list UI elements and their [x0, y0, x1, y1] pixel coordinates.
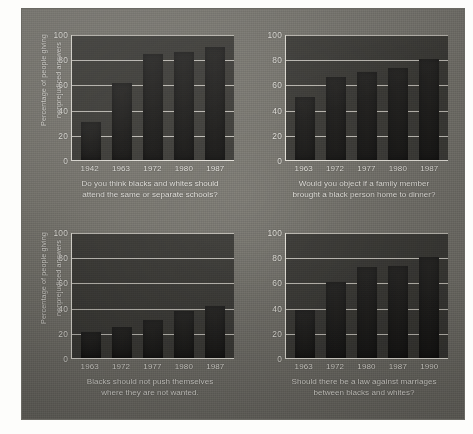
bar-1942: [81, 122, 101, 160]
caption-line2: brought a black person home to dinner?: [274, 189, 454, 200]
caption-bottom-left: Blacks should not push themselves where …: [60, 376, 240, 398]
x-tick-label: 1977: [354, 164, 378, 176]
y-tick-label: 0: [63, 354, 68, 364]
y-axis-ticks-bottom-left: 100806040200: [46, 233, 68, 359]
x-tick-label: 1972: [323, 164, 347, 176]
bar-1972: [326, 282, 346, 358]
x-axis-labels-bottom-right: 19631972198019871990: [285, 362, 448, 374]
y-tick-label: 100: [53, 228, 68, 238]
y-tick-label: 20: [58, 131, 68, 141]
bar-1963: [295, 310, 315, 358]
y-tick-label: 40: [272, 304, 282, 314]
x-tick-label: 1963: [109, 164, 133, 176]
bars-top-left: [72, 35, 234, 160]
bar-1972: [326, 77, 346, 160]
bar-1987: [419, 59, 439, 160]
x-tick-label: 1987: [417, 164, 441, 176]
bar-1987: [388, 266, 408, 358]
y-axis-ticks-top-left: 100806040200: [46, 35, 68, 161]
x-tick-label: 1972: [323, 362, 347, 374]
bar-1980: [388, 68, 408, 160]
y-tick-label: 80: [58, 253, 68, 263]
x-tick-label: 1980: [172, 164, 196, 176]
x-tick-label: 1963: [78, 362, 102, 374]
y-tick-label: 20: [272, 131, 282, 141]
y-tick-label: 20: [272, 329, 282, 339]
y-tick-label: 100: [53, 30, 68, 40]
plot-area-bottom-right: [285, 233, 448, 359]
y-tick-label: 100: [267, 228, 282, 238]
caption-line1: Blacks should not push themselves: [60, 376, 240, 387]
bars-bottom-left: [72, 233, 234, 358]
plot-area-bottom-left: [71, 233, 234, 359]
chart-panel-bottom-right: 100806040200 19631972198019871990 Should…: [244, 215, 456, 415]
figure-page: Percentage of people giving nonprejudice…: [0, 0, 473, 434]
bar-1963: [81, 332, 101, 358]
bar-1987: [205, 306, 225, 358]
bar-1977: [143, 320, 163, 358]
y-axis-ticks-bottom-right: 100806040200: [260, 233, 282, 359]
y-tick-label: 60: [272, 278, 282, 288]
x-tick-label: 1972: [109, 362, 133, 374]
x-axis-labels-top-right: 19631972197719801987: [285, 164, 448, 176]
x-axis-labels-top-left: 19421963197219801987: [71, 164, 234, 176]
plot-area-top-right: [285, 35, 448, 161]
caption-line1: Do you think blacks and whites should: [60, 178, 240, 189]
x-tick-label: 1942: [78, 164, 102, 176]
bars-bottom-right: [286, 233, 448, 358]
y-tick-label: 60: [58, 278, 68, 288]
caption-top-left: Do you think blacks and whites should at…: [60, 178, 240, 200]
chart-panel-bottom-left: Percentage of people giving nonprejudice…: [30, 215, 242, 415]
x-tick-label: 1990: [417, 362, 441, 374]
caption-bottom-right: Should there be a law against marriages …: [274, 376, 454, 398]
plot-inner-top-left: [72, 35, 234, 160]
chart-panel-top-right: 100806040200 19631972197719801987 Would …: [244, 17, 456, 217]
y-tick-label: 0: [277, 156, 282, 166]
bar-1972: [143, 54, 163, 160]
y-tick-label: 60: [58, 80, 68, 90]
caption-line1: Should there be a law against marriages: [274, 376, 454, 387]
bar-1977: [357, 72, 377, 160]
bar-1963: [112, 83, 132, 160]
x-tick-label: 1980: [386, 164, 410, 176]
x-tick-label: 1987: [386, 362, 410, 374]
bar-1980: [174, 52, 194, 160]
caption-line1: Would you object if a family member: [274, 178, 454, 189]
bar-1963: [295, 97, 315, 160]
y-tick-label: 20: [58, 329, 68, 339]
caption-line2: where they are not wanted.: [60, 387, 240, 398]
y-axis-ticks-top-right: 100806040200: [260, 35, 282, 161]
chart-panel-top-left: Percentage of people giving nonprejudice…: [30, 17, 242, 217]
plot-inner-bottom-left: [72, 233, 234, 358]
y-tick-label: 0: [63, 156, 68, 166]
y-tick-label: 40: [58, 304, 68, 314]
y-tick-label: 40: [58, 106, 68, 116]
caption-line2: attend the same or separate schools?: [60, 189, 240, 200]
bar-1980: [174, 311, 194, 358]
scanned-figure-plate: Percentage of people giving nonprejudice…: [22, 9, 464, 419]
bar-1972: [112, 327, 132, 359]
bars-top-right: [286, 35, 448, 160]
plot-inner-top-right: [286, 35, 448, 160]
y-tick-label: 60: [272, 80, 282, 90]
x-tick-label: 1987: [203, 362, 227, 374]
x-tick-label: 1963: [292, 362, 316, 374]
y-tick-label: 100: [267, 30, 282, 40]
x-tick-label: 1972: [140, 164, 164, 176]
caption-line2: between blacks and whites?: [274, 387, 454, 398]
plot-area-top-left: [71, 35, 234, 161]
x-tick-label: 1980: [354, 362, 378, 374]
y-tick-label: 80: [58, 55, 68, 65]
y-tick-label: 40: [272, 106, 282, 116]
bar-1987: [205, 47, 225, 160]
bar-1980: [357, 267, 377, 358]
plot-inner-bottom-right: [286, 233, 448, 358]
x-axis-labels-bottom-left: 19631972197719801987: [71, 362, 234, 374]
bar-1990: [419, 257, 439, 358]
x-tick-label: 1987: [203, 164, 227, 176]
x-tick-label: 1977: [140, 362, 164, 374]
x-tick-label: 1963: [292, 164, 316, 176]
y-tick-label: 80: [272, 55, 282, 65]
y-tick-label: 0: [277, 354, 282, 364]
x-tick-label: 1980: [172, 362, 196, 374]
